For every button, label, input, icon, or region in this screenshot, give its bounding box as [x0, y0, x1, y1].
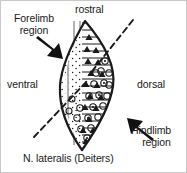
hindlimb-label-line2: region: [127, 137, 186, 149]
forelimb-label-line1: Forelimb: [14, 12, 54, 24]
label-dorsal: dorsal: [137, 79, 165, 91]
forelimb-label-line2: region: [4, 25, 64, 37]
forelimb-arrow-icon: [36, 36, 63, 59]
nucleus-body: [51, 16, 121, 161]
label-hindlimb-region: Hindlimb region: [131, 125, 186, 148]
figure-container: rostral ventral dorsal Forelimb region H…: [0, 0, 187, 173]
label-forelimb-region: Forelimb region: [4, 13, 64, 36]
hindlimb-label-line1: Hindlimb: [131, 124, 171, 136]
label-rostral: rostral: [75, 4, 103, 16]
label-ventral: ventral: [7, 79, 38, 91]
figure-caption: N. lateralis (Deiters): [23, 153, 114, 165]
